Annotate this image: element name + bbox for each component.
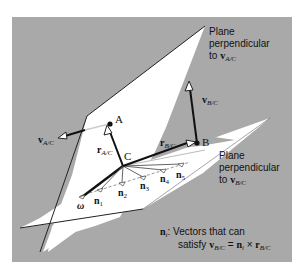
point-b-dot [194, 140, 199, 145]
label-b: B [202, 136, 209, 148]
label-c: C [124, 150, 131, 162]
label-omega: ω [77, 200, 84, 211]
point-a-dot [107, 121, 112, 126]
kinematics-diagram: A B C rA/C rB/C vA/C vB/C ω n1 n2 n3 n4 … [0, 0, 301, 277]
svg-text:perpendicular: perpendicular [209, 38, 270, 49]
svg-text:Plane: Plane [219, 150, 245, 161]
svg-text:Plane: Plane [209, 26, 235, 37]
label-a: A [115, 113, 123, 125]
svg-text:perpendicular: perpendicular [219, 162, 280, 173]
